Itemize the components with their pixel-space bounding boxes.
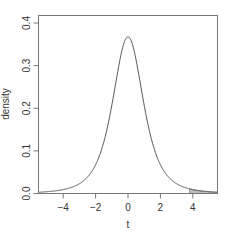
density-curve	[38, 37, 217, 192]
y-axis: 0.00.10.20.30.4	[21, 16, 39, 201]
x-tick-label: 4	[190, 202, 196, 213]
x-tick-label: 0	[125, 202, 131, 213]
x-tick-label: −2	[90, 202, 102, 213]
y-axis-label: density	[0, 88, 11, 120]
y-tick-label: 0.1	[21, 143, 32, 157]
x-axis-label: t	[127, 219, 130, 230]
plot-box	[39, 16, 218, 194]
y-tick-label: 0.2	[21, 101, 32, 115]
y-tick-label: 0.0	[21, 186, 32, 200]
x-axis: −4−2024	[57, 194, 196, 213]
y-tick-label: 0.4	[21, 16, 32, 30]
x-tick-label: −4	[57, 202, 69, 213]
density-chart: 0.00.10.20.30.4 −4−2024 t density	[0, 0, 229, 236]
y-tick-label: 0.3	[21, 58, 32, 72]
x-tick-label: 2	[158, 202, 164, 213]
